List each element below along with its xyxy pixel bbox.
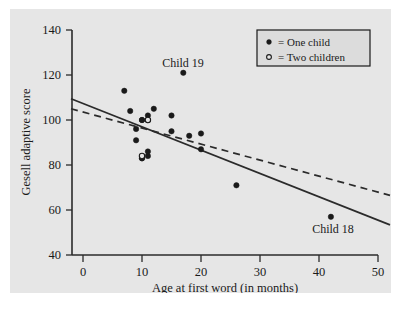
x-ticklabel-0: 0 (80, 265, 86, 279)
data-point (139, 117, 144, 122)
x-axis-title: Age at first word (in months) (152, 281, 298, 293)
legend-label-two-children: = Two children (278, 51, 345, 63)
figure-panel: 140 120 100 80 60 40 0 10 20 30 40 50 Ag… (10, 9, 391, 293)
data-point (169, 129, 174, 134)
data-point (133, 126, 138, 131)
x-ticklabel-10: 10 (136, 265, 149, 279)
data-point (145, 117, 150, 122)
data-point (122, 88, 127, 93)
data-point (234, 183, 239, 188)
legend: = One child = Two children (257, 30, 370, 66)
y-ticklabel-100: 100 (42, 113, 61, 127)
y-axis-title: Gesell adaptive score (19, 88, 33, 195)
regression-lines (71, 99, 390, 225)
x-axis-ticks: 0 10 20 30 40 50 (80, 255, 384, 279)
series-one-child (122, 70, 334, 219)
y-axis-ticks: 140 120 100 80 60 40 (42, 23, 72, 262)
regression-all-data-line (71, 99, 390, 225)
x-ticklabel-40: 40 (313, 265, 326, 279)
x-ticklabel-30: 30 (254, 265, 267, 279)
data-point (328, 214, 333, 219)
data-point (198, 131, 203, 136)
y-ticklabel-80: 80 (49, 158, 62, 172)
data-point (145, 149, 150, 154)
legend-marker-two-children-icon (267, 55, 272, 60)
data-point (198, 147, 203, 152)
data-point (187, 133, 192, 138)
scatter-plot: 140 120 100 80 60 40 0 10 20 30 40 50 Ag… (10, 9, 391, 293)
annotation-child-18: Child 18 (312, 222, 354, 236)
data-point (169, 113, 174, 118)
regression-excluding-outliers-line (71, 109, 390, 196)
data-point (151, 106, 156, 111)
y-ticklabel-60: 60 (49, 203, 62, 217)
x-ticklabel-20: 20 (195, 265, 208, 279)
data-point (133, 138, 138, 143)
annotation-child-19: Child 19 (162, 56, 204, 70)
legend-label-one-child: = One child (278, 36, 331, 48)
data-point (128, 108, 133, 113)
data-point (139, 153, 144, 158)
data-point (181, 70, 186, 75)
y-ticklabel-140: 140 (42, 23, 61, 37)
y-ticklabel-40: 40 (49, 248, 62, 262)
legend-marker-one-child-icon (267, 40, 272, 45)
x-ticklabel-50: 50 (372, 265, 385, 279)
y-ticklabel-120: 120 (42, 68, 61, 82)
